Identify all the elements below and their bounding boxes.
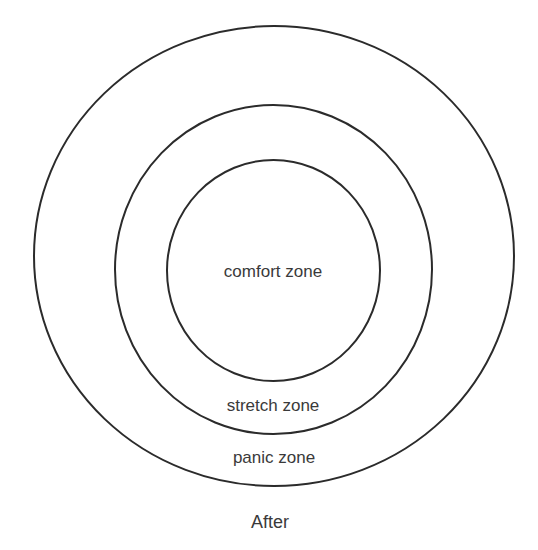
comfort-zone-label: comfort zone [224, 262, 322, 281]
panic-zone-ring [34, 26, 514, 486]
zones-diagram: comfort zone stretch zone panic zone Aft… [0, 0, 538, 550]
stretch-zone-label: stretch zone [227, 396, 320, 415]
panic-zone-label: panic zone [233, 448, 315, 467]
diagram-caption: After [251, 512, 289, 532]
